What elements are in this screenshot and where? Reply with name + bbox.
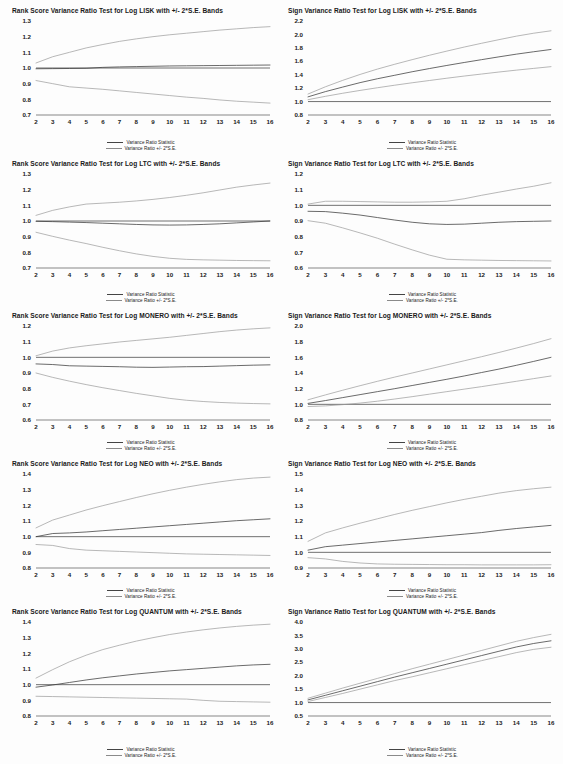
svg-text:0.8: 0.8 (22, 385, 31, 392)
svg-text:10: 10 (443, 423, 450, 430)
svg-text:12: 12 (478, 571, 485, 578)
chart-legend: Variance Ratio Statistic Variance Ratio … (282, 747, 563, 758)
svg-text:16: 16 (548, 571, 555, 578)
legend-swatch-band (106, 448, 122, 449)
svg-text:2.5: 2.5 (294, 658, 303, 665)
svg-text:10: 10 (443, 571, 450, 578)
svg-text:0.7: 0.7 (22, 401, 31, 408)
svg-text:2: 2 (34, 271, 38, 278)
svg-text:10: 10 (166, 423, 173, 430)
svg-text:0.8: 0.8 (294, 111, 303, 118)
legend-item-band: Variance Ratio +/- 2*S.E. (387, 594, 458, 599)
chart-panel-rank-ltc: Rank Score Variance Ratio Test for Log L… (0, 153, 282, 305)
legend-swatch-band (387, 755, 403, 756)
svg-text:8: 8 (410, 719, 414, 726)
svg-text:7: 7 (393, 118, 397, 125)
svg-text:0.6: 0.6 (22, 416, 31, 423)
svg-text:0.8: 0.8 (294, 416, 303, 423)
svg-text:5: 5 (358, 571, 362, 578)
legend-swatch-band (387, 596, 403, 597)
svg-text:4: 4 (68, 118, 72, 125)
legend-label-statistic: Variance Ratio Statistic (126, 140, 174, 145)
svg-text:14: 14 (233, 719, 240, 726)
svg-text:6: 6 (376, 571, 380, 578)
svg-text:7: 7 (393, 571, 397, 578)
svg-text:5: 5 (84, 271, 88, 278)
svg-text:4: 4 (341, 118, 345, 125)
legend-swatch-statistic (389, 590, 405, 591)
svg-text:8: 8 (135, 118, 139, 125)
svg-text:9: 9 (151, 271, 155, 278)
svg-text:16: 16 (267, 571, 274, 578)
svg-text:1.2: 1.2 (22, 186, 31, 193)
chart-legend: Variance Ratio Statistic Variance Ratio … (0, 140, 282, 151)
svg-text:3.0: 3.0 (294, 645, 303, 652)
svg-text:1.1: 1.1 (22, 49, 31, 56)
svg-text:1.1: 1.1 (22, 665, 31, 672)
svg-text:11: 11 (461, 571, 468, 578)
svg-text:2: 2 (306, 719, 310, 726)
svg-text:1.0: 1.0 (22, 217, 31, 224)
chart-panel-rank-quantum: Rank Score Variance Ratio Test for Log Q… (0, 601, 282, 760)
svg-text:2: 2 (34, 719, 38, 726)
svg-text:16: 16 (267, 719, 274, 726)
chart-legend: Variance Ratio Statistic Variance Ratio … (282, 140, 563, 151)
svg-text:15: 15 (530, 118, 537, 125)
svg-text:7: 7 (118, 719, 122, 726)
legend-item-band: Variance Ratio +/- 2*S.E. (387, 298, 458, 303)
svg-text:8: 8 (410, 423, 414, 430)
legend-swatch-band (106, 148, 122, 149)
svg-text:2: 2 (34, 118, 38, 125)
svg-text:1.0: 1.0 (22, 354, 31, 361)
svg-text:4: 4 (341, 571, 345, 578)
svg-text:10: 10 (166, 271, 173, 278)
legend-label-band: Variance Ratio +/- 2*S.E. (125, 446, 177, 451)
plot-area: 0.81.01.21.41.61.82.02345678910111213141… (282, 320, 563, 440)
svg-text:11: 11 (461, 118, 468, 125)
svg-text:1.4: 1.4 (294, 71, 303, 78)
svg-text:0.7: 0.7 (22, 111, 31, 118)
plot-area: 0.70.80.91.01.11.21.32345678910111213141… (0, 168, 282, 288)
svg-text:0.9: 0.9 (22, 369, 31, 376)
svg-text:9: 9 (151, 118, 155, 125)
svg-text:5: 5 (84, 118, 88, 125)
chart-panel-sign-neo: Sign Variance Ratio Test for Log NEO wit… (282, 453, 563, 601)
chart-panel-sign-quantum: Sign Variance Ratio Test for Log QUANTUM… (282, 601, 563, 760)
svg-text:6: 6 (101, 271, 105, 278)
svg-text:1.5: 1.5 (294, 470, 303, 477)
chart-panel-sign-monero: Sign Variance Ratio Test for Log MONERO … (282, 305, 563, 453)
plot-area: 0.81.01.21.41.61.82.02.22345678910111213… (282, 15, 563, 135)
legend-swatch-statistic (389, 442, 405, 443)
legend-item-statistic: Variance Ratio Statistic (107, 440, 174, 445)
legend-item-statistic: Variance Ratio Statistic (389, 747, 456, 752)
svg-text:6: 6 (101, 719, 105, 726)
svg-text:15: 15 (250, 423, 257, 430)
svg-text:10: 10 (166, 571, 173, 578)
svg-text:2: 2 (34, 571, 38, 578)
svg-text:15: 15 (250, 571, 257, 578)
chart-legend: Variance Ratio Statistic Variance Ratio … (282, 440, 563, 451)
legend-swatch-band (106, 596, 122, 597)
svg-text:1.8: 1.8 (294, 44, 303, 51)
svg-text:16: 16 (548, 719, 555, 726)
legend-swatch-statistic (107, 294, 123, 295)
svg-text:15: 15 (530, 423, 537, 430)
svg-text:0.8: 0.8 (22, 564, 31, 571)
svg-text:16: 16 (267, 271, 274, 278)
svg-text:10: 10 (166, 719, 173, 726)
svg-text:12: 12 (200, 719, 207, 726)
svg-text:3: 3 (324, 271, 328, 278)
chart-legend: Variance Ratio Statistic Variance Ratio … (0, 747, 282, 758)
svg-text:7: 7 (118, 118, 122, 125)
svg-text:0.8: 0.8 (22, 96, 31, 103)
svg-text:0.7: 0.7 (22, 264, 31, 271)
legend-item-statistic: Variance Ratio Statistic (107, 140, 174, 145)
legend-swatch-statistic (389, 142, 405, 143)
svg-text:1.0: 1.0 (294, 202, 303, 209)
legend-swatch-statistic (107, 142, 123, 143)
chart-title: Rank Score Variance Ratio Test for Log Q… (0, 601, 282, 616)
legend-label-statistic: Variance Ratio Statistic (126, 440, 174, 445)
svg-text:0.8: 0.8 (22, 249, 31, 256)
svg-text:14: 14 (513, 271, 520, 278)
svg-text:13: 13 (495, 571, 502, 578)
